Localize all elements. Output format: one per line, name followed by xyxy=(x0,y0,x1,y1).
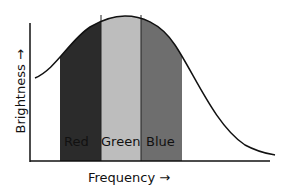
blue-label: Blue xyxy=(146,134,175,149)
spectrum-diagram xyxy=(0,0,289,194)
x-axis-label: Frequency → xyxy=(88,170,170,185)
red-label: Red xyxy=(64,134,89,149)
green-label: Green xyxy=(101,134,140,149)
y-axis-label: Brightness → xyxy=(13,54,28,134)
